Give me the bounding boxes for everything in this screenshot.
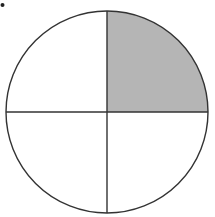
bullet-marker: [1, 3, 5, 7]
shaded-quadrant-top-right: [107, 11, 208, 112]
fraction-circle-diagram: [0, 0, 215, 217]
